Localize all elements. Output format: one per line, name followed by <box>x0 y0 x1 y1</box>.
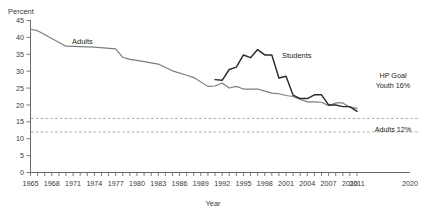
x-tick-label: 1971 <box>65 179 81 188</box>
x-tick-label: 1965 <box>23 179 39 188</box>
y-axis-ticks: 051015202530354045 <box>16 16 31 177</box>
x-axis-title: Year <box>205 199 221 208</box>
x-tick-label: 2004 <box>299 179 315 188</box>
x-tick-label: 1974 <box>86 179 102 188</box>
y-tick-label: 0 <box>20 168 24 177</box>
y-tick-label: 20 <box>16 101 24 110</box>
x-tick-label: 2007 <box>321 179 337 188</box>
y-tick-label: 15 <box>16 117 24 126</box>
students-series-label: Students <box>282 51 312 60</box>
y-axis-title: Percent <box>8 7 35 16</box>
y-tick-label: 30 <box>16 67 24 76</box>
x-tick-label: 2001 <box>278 179 294 188</box>
x-tick-label: 1968 <box>44 179 60 188</box>
x-tick-label: 1992 <box>214 179 230 188</box>
y-tick-label: 35 <box>16 50 24 59</box>
x-tick-label: 1980 <box>129 179 145 188</box>
chart-canvas: Percent 051015202530354045 1965196819711… <box>0 0 424 216</box>
cigarette-use-trend-chart: Percent 051015202530354045 1965196819711… <box>0 0 424 216</box>
x-tick-label: 1998 <box>257 179 273 188</box>
y-tick-label: 45 <box>16 16 24 25</box>
adults-target-annotation: Adults 12% <box>375 125 412 134</box>
x-tick-label: 2011 <box>349 179 364 188</box>
x-tick-label: 1986 <box>172 179 188 188</box>
x-tick-label: 1983 <box>150 179 166 188</box>
hp-goal-youth-annotation-line2: Youth 16% <box>376 81 411 90</box>
y-tick-label: 5 <box>20 151 24 160</box>
x-tick-label: 1995 <box>235 179 251 188</box>
x-tick-label: 2020 <box>402 179 418 188</box>
y-tick-label: 25 <box>16 84 24 93</box>
x-tick-label: 1977 <box>108 179 124 188</box>
x-tick-label: 1989 <box>193 179 209 188</box>
y-tick-label: 40 <box>16 33 24 42</box>
reference-lines <box>31 118 420 132</box>
hp-goal-youth-annotation-line1: HP Goal <box>379 71 406 80</box>
y-tick-label: 10 <box>16 134 24 143</box>
x-axis-ticks: 1965196819711974197719801983198619891992… <box>23 173 419 188</box>
adults-series-label: Adults <box>72 37 93 46</box>
